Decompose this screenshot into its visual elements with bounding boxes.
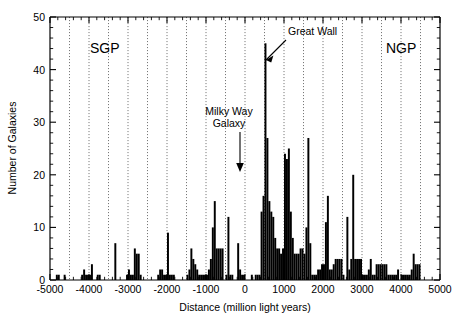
histogram-bar <box>397 269 399 280</box>
x-tick-label: 0 <box>242 283 248 295</box>
histogram-bar <box>290 212 292 280</box>
great-wall-label: Great Wall <box>288 25 337 37</box>
histogram-bar <box>138 254 140 280</box>
histogram-bar <box>278 248 280 280</box>
histogram-bar <box>403 275 405 280</box>
x-tick-label: 3000 <box>350 283 374 295</box>
histogram-bar <box>333 264 335 280</box>
sgp-label: SGP <box>90 40 120 56</box>
gridlines <box>70 17 421 280</box>
histogram-bar <box>265 43 267 280</box>
histogram-bar <box>231 275 233 280</box>
histogram-bar <box>187 275 189 280</box>
histogram-bar <box>266 138 268 280</box>
histogram-bar <box>366 275 368 280</box>
histogram-bar <box>364 275 366 280</box>
y-tick-label: 20 <box>33 169 45 181</box>
histogram-bar <box>374 275 376 280</box>
x-tick-label: 2000 <box>311 283 335 295</box>
y-tick-label: 50 <box>33 11 45 23</box>
histogram-bar <box>387 275 389 280</box>
histogram-bar <box>319 269 321 280</box>
histogram-bar <box>270 212 272 280</box>
histogram-bar <box>348 269 350 280</box>
histogram-bar <box>372 275 374 280</box>
histogram-bar <box>382 264 384 280</box>
milky-way-arrowhead <box>236 163 244 172</box>
histogram-bar <box>255 275 257 280</box>
y-tick-label: 30 <box>33 116 45 128</box>
histogram-bar <box>208 269 210 280</box>
histogram-bar <box>286 159 288 280</box>
histogram-bar <box>99 275 101 280</box>
histogram-bar <box>307 138 309 280</box>
histogram-bar <box>218 248 220 280</box>
histogram-bar <box>216 248 218 280</box>
histogram-bar <box>194 264 196 280</box>
x-tick-label: -3000 <box>115 283 142 295</box>
histogram-bar <box>395 275 397 280</box>
histogram-bar <box>296 254 298 280</box>
histogram-bar <box>130 275 132 280</box>
histogram-bar <box>257 275 259 280</box>
histogram-bar <box>413 254 415 280</box>
x-axis-title: Distance (million light years) <box>179 301 310 313</box>
histogram-bar <box>298 254 300 280</box>
histogram-bar <box>380 264 382 280</box>
histogram-bar <box>220 248 222 280</box>
histogram-bar <box>136 254 138 280</box>
histogram-bar <box>237 243 239 280</box>
histogram-bar <box>389 275 391 280</box>
x-tick-label: -1000 <box>193 283 220 295</box>
histogram-bar <box>405 275 407 280</box>
histogram-bar <box>356 259 358 280</box>
histogram-bar <box>352 175 354 280</box>
histogram-bar <box>411 269 413 280</box>
histogram-bar <box>272 217 274 280</box>
x-tick-label: 5000 <box>428 283 452 295</box>
histogram-bar <box>167 233 169 280</box>
chart-canvas: -5000-4000-3000-2000-1000010002000300040… <box>0 0 465 332</box>
histogram-bar <box>309 243 311 280</box>
histogram-bar <box>280 254 282 280</box>
histogram-bar <box>169 275 171 280</box>
histogram-bar <box>288 149 290 281</box>
histogram-bar <box>222 248 224 280</box>
histogram-bar <box>300 248 302 280</box>
histogram-bar <box>210 259 212 280</box>
x-tick-label: -4000 <box>76 283 103 295</box>
histogram-bar <box>190 248 192 280</box>
histogram-bar <box>419 264 421 280</box>
x-tick-label: 4000 <box>389 283 413 295</box>
y-tick-label: 10 <box>33 221 45 233</box>
histogram-bar <box>335 259 337 280</box>
histogram-bar <box>83 269 85 280</box>
histogram-bar <box>202 275 204 280</box>
histogram-bar <box>302 248 304 280</box>
histogram-bar <box>226 275 228 280</box>
histogram-bars <box>56 43 421 280</box>
histogram-bar <box>85 275 87 280</box>
histogram-bar <box>114 243 116 280</box>
histogram-bar <box>276 248 278 280</box>
histogram-bar <box>132 275 134 280</box>
x-tick-label: -2000 <box>154 283 181 295</box>
histogram-bar <box>171 275 173 280</box>
histogram-bar <box>284 154 286 280</box>
histogram-bar <box>91 264 93 280</box>
histogram-bar <box>134 248 136 280</box>
histogram-bar <box>239 269 241 280</box>
histogram-bar <box>192 259 194 280</box>
histogram-bar <box>327 196 329 280</box>
histogram-bar <box>212 227 214 280</box>
histogram-bar <box>346 217 348 280</box>
histogram-bar <box>214 201 216 280</box>
histogram-bar <box>163 275 165 280</box>
histogram-bar <box>343 275 345 280</box>
galaxy-distance-histogram-figure: -5000-4000-3000-2000-1000010002000300040… <box>0 0 465 332</box>
histogram-bar <box>304 254 306 280</box>
histogram-bar <box>200 275 202 280</box>
histogram-bar <box>274 238 276 280</box>
milky-way-label-line2: Galaxy <box>213 117 246 129</box>
y-tick-label: 40 <box>33 64 45 76</box>
